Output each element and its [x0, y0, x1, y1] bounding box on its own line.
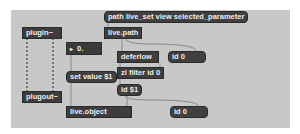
plugin-object[interactable]: plugin~ [22, 27, 62, 39]
live-path-object[interactable]: live.path [104, 27, 142, 39]
plugout-text: plugout~ [26, 92, 58, 101]
id-0-message-lower[interactable]: id 0 [170, 106, 208, 118]
path-message-box[interactable]: path live_set view selected_parameter [104, 11, 248, 23]
id-0-upper-text: id 0 [172, 52, 185, 61]
path-message-text: path live_set view selected_parameter [108, 12, 244, 21]
zl-filter-object[interactable]: zl filter id 0 [117, 67, 164, 79]
id-arg-text: id $1 [121, 85, 138, 94]
deferlow-object[interactable]: deferlow [117, 51, 159, 63]
set-value-message-box[interactable]: set value $1 [66, 71, 117, 83]
id-0-lower-text: id 0 [174, 107, 187, 116]
deferlow-text: deferlow [121, 52, 152, 61]
flonum-box[interactable]: ▸ 0. [66, 42, 102, 55]
set-value-text: set value $1 [70, 72, 113, 81]
triangle-right-icon: ▸ [70, 46, 73, 52]
id-0-message-upper[interactable]: id 0 [168, 51, 206, 63]
flonum-value: 0. [77, 44, 83, 53]
id-arg-message-box[interactable]: id $1 [117, 84, 142, 96]
live-path-text: live.path [108, 28, 138, 37]
plugout-object[interactable]: plugout~ [22, 91, 62, 103]
zl-filter-text: zl filter id 0 [121, 68, 160, 77]
plugin-text: plugin~ [26, 28, 53, 37]
live-object-object[interactable]: live.object [66, 106, 132, 118]
live-object-text: live.object [70, 107, 107, 116]
